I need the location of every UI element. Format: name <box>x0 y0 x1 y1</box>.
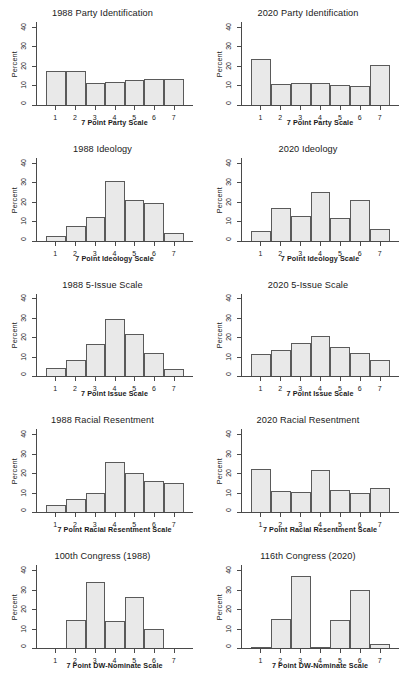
y-axis-title-label: Percent <box>215 322 224 348</box>
histogram-bar <box>330 620 350 648</box>
histogram-bar <box>105 82 125 104</box>
chart-panel: 2020 IdeologyPercent01020304012345677 Po… <box>205 136 411 272</box>
x-axis-tick <box>340 242 341 246</box>
x-axis-title: 7 Point DW-Nominate Scale <box>241 661 399 670</box>
histogram-bar <box>271 619 291 648</box>
histogram-grid: 1988 Party IdentificationPercent01020304… <box>0 0 411 679</box>
x-axis-tick <box>75 377 76 381</box>
histogram-bar <box>251 59 271 104</box>
x-axis-tick <box>360 106 361 110</box>
histogram-bar <box>251 231 271 241</box>
x-axis-tick <box>115 106 116 110</box>
y-axis-tick-value: 20 <box>20 605 27 613</box>
x-axis-title: 7 Point Ideology Scale <box>241 254 399 263</box>
chart-panel: 1988 5-Issue ScalePercent010203040123456… <box>0 272 205 408</box>
histogram-bar <box>370 360 390 376</box>
bars-container <box>37 158 193 241</box>
y-axis-tick <box>237 337 241 338</box>
histogram-bar <box>66 226 86 241</box>
x-axis-tick <box>280 649 281 653</box>
y-axis-tick-value: 30 <box>225 586 232 594</box>
y-axis-tick <box>237 434 241 435</box>
y-axis-title: Percent <box>8 22 20 106</box>
bars-container <box>37 294 193 377</box>
histogram-bar <box>86 344 106 377</box>
x-axis-tick <box>115 649 116 653</box>
x-axis-tick <box>55 242 56 246</box>
y-axis-tick <box>32 66 36 67</box>
histogram-bar <box>350 590 370 648</box>
y-axis-tick <box>32 570 36 571</box>
y-axis-tick <box>237 376 241 377</box>
x-axis-tick <box>174 513 175 517</box>
y-axis-tick-value: 20 <box>225 605 232 613</box>
x-axis-tick <box>95 513 96 517</box>
x-axis-tick <box>320 513 321 517</box>
histogram-bar <box>144 203 164 240</box>
y-axis-tick-value: 40 <box>20 294 27 302</box>
chart-panel: 2020 Racial ResentmentPercent01020304012… <box>205 407 411 543</box>
histogram-bar <box>125 200 145 241</box>
x-axis-tick <box>380 106 381 110</box>
y-axis-title: Percent <box>8 429 20 513</box>
histogram-bar <box>350 200 370 240</box>
y-axis-tick-value: 10 <box>225 625 232 633</box>
bars-container <box>37 22 193 105</box>
histogram-bar <box>370 229 390 241</box>
y-axis-title: Percent <box>213 565 225 649</box>
x-axis-tick <box>75 106 76 110</box>
histogram-bar <box>86 217 106 241</box>
y-axis-tick-value: 0 <box>20 508 27 512</box>
y-axis-tick <box>237 493 241 494</box>
chart-panel: 2020 Party IdentificationPercent01020304… <box>205 0 411 136</box>
histogram-bar <box>86 493 106 513</box>
bars-container <box>242 429 399 512</box>
y-axis-title: Percent <box>213 294 225 378</box>
bars-container <box>242 158 399 241</box>
chart-title: 2020 Ideology <box>205 144 411 154</box>
y-axis-tick <box>237 66 241 67</box>
x-axis-tick <box>320 106 321 110</box>
x-axis-title: 7 Point Party Scale <box>241 118 399 127</box>
histogram-bar <box>66 360 86 377</box>
chart-panel: 1988 IdeologyPercent01020304012345677 Po… <box>0 136 205 272</box>
x-axis-tick <box>300 242 301 246</box>
histogram-bar <box>105 319 125 377</box>
histogram-bar <box>105 621 125 648</box>
y-axis-tick-value: 10 <box>20 217 27 225</box>
histogram-bar <box>164 79 184 105</box>
y-axis-tick <box>32 648 36 649</box>
y-axis-tick <box>237 163 241 164</box>
y-axis-tick-value: 30 <box>225 42 232 50</box>
x-axis-tick <box>360 513 361 517</box>
y-axis-tick-value: 40 <box>20 159 27 167</box>
y-axis-tick-value: 20 <box>20 469 27 477</box>
x-axis-tick <box>360 242 361 246</box>
y-axis-tick-value: 20 <box>20 62 27 70</box>
y-axis-tick-value: 10 <box>225 489 232 497</box>
chart-title: 2020 Party Identification <box>205 8 411 18</box>
histogram-bar <box>125 80 145 105</box>
histogram-bar <box>311 336 331 377</box>
y-axis-tick-value: 40 <box>20 23 27 31</box>
x-axis-tick <box>280 377 281 381</box>
y-axis-title-label: Percent <box>215 458 224 484</box>
y-axis-title-label: Percent <box>10 187 19 213</box>
y-axis-tick-value: 0 <box>225 644 232 648</box>
histogram-bar <box>251 469 271 513</box>
plot-area: 0102030401234567 <box>36 22 193 106</box>
histogram-bar <box>311 647 331 648</box>
plot-area: 0102030401234567 <box>36 158 193 242</box>
x-axis-tick <box>174 106 175 110</box>
histogram-bar <box>251 354 271 376</box>
y-axis-tick <box>237 609 241 610</box>
histogram-bar <box>370 644 390 648</box>
y-axis-tick <box>32 221 36 222</box>
histogram-bar <box>144 629 164 648</box>
y-axis-title-label: Percent <box>10 51 19 77</box>
y-axis-tick <box>237 648 241 649</box>
y-axis-tick <box>237 221 241 222</box>
y-axis-tick <box>32 182 36 183</box>
histogram-bar <box>144 481 164 512</box>
x-axis-tick <box>300 106 301 110</box>
